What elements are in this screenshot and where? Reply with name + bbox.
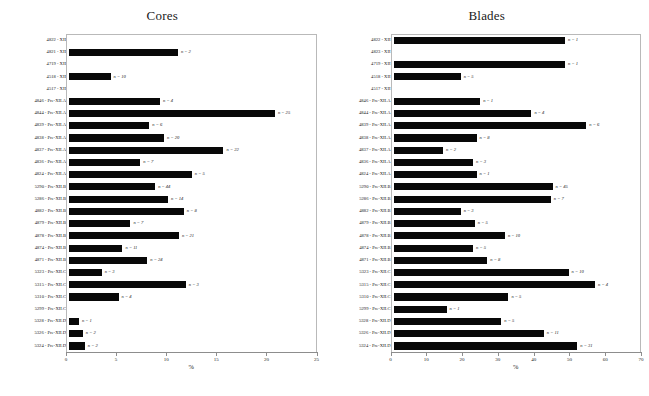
bar-track: n = 1 <box>394 303 642 315</box>
bar <box>394 183 553 190</box>
bar-row: 5326 - Pre-XII.Dn = 2 <box>0 328 317 340</box>
bar <box>394 342 578 349</box>
bar-track: n = 14 <box>69 193 317 205</box>
chart-panel-cores: Cores 4822 - XII4821 - XIIn = 24719 - XI… <box>0 0 325 396</box>
bar <box>69 342 85 349</box>
x-axis-tick <box>498 352 499 356</box>
bar-row: 4719 - XII <box>0 58 317 70</box>
bar-track: n = 8 <box>394 254 642 266</box>
bar-value-label: n = 31 <box>577 344 592 349</box>
bar-track <box>394 83 642 95</box>
bar-track: n = 8 <box>69 205 317 217</box>
bar-track: n = 4 <box>69 95 317 107</box>
bar-value-label: n = 5 <box>475 221 488 226</box>
bar <box>69 122 149 129</box>
bar-track: n = 7 <box>69 218 317 230</box>
x-axis-tick <box>605 352 606 356</box>
bar-row: 4837 - Pre-XII.An = 2 <box>325 144 642 156</box>
bar-track: n = 1 <box>394 34 642 46</box>
x-axis-tick-label: 30 <box>495 357 500 362</box>
bar-track: n = 1 <box>394 169 642 181</box>
bar-value-label: n = 2 <box>443 148 456 153</box>
bar-row: 4874 - Pre-XII.Bn = 11 <box>0 242 317 254</box>
bar-value-label: n = 5 <box>473 246 486 251</box>
bar-track: n = 2 <box>394 144 642 156</box>
bar-track: n = 6 <box>69 120 317 132</box>
bar-category-label: 5286 - Pre-XII.B <box>325 197 394 202</box>
bar-category-label: 4882 - Pre-XII.B <box>325 209 394 214</box>
bar-category-label: 4878 - Pre-XII.B <box>0 234 69 239</box>
bar-category-label: 5323 - Pre-XII.C <box>325 270 394 275</box>
bar-track: n = 4 <box>394 279 642 291</box>
x-axis-tick-label: 0 <box>65 357 68 362</box>
bar <box>394 147 444 154</box>
bar <box>69 232 179 239</box>
bar-value-label: n = 3 <box>186 283 199 288</box>
bar <box>394 61 565 68</box>
bar <box>394 257 488 264</box>
bar-category-label: 4838 - Pre-XII.A <box>0 136 69 141</box>
bar-category-label: 5299 - Pre-XII.C <box>325 307 394 312</box>
bar-track: n = 22 <box>69 144 317 156</box>
bar-value-label: n = 11 <box>122 246 137 251</box>
bar <box>394 245 474 252</box>
bar-track: n = 3 <box>69 279 317 291</box>
bar-track: n = 2 <box>69 328 317 340</box>
bar <box>69 257 147 264</box>
bar-category-label: 4871 - Pre-XII.B <box>325 258 394 263</box>
bar-row: 4518 - XIIn = 5 <box>325 71 642 83</box>
bar-track: n = 11 <box>394 328 642 340</box>
bar-row: 5310 - Pre-XII.Cn = 5 <box>325 291 642 303</box>
bar <box>69 98 160 105</box>
bar-category-label: 5328 - Pre-XII.D <box>325 319 394 324</box>
bar <box>394 110 532 117</box>
bar-value-label: n = 3 <box>461 209 474 214</box>
bar-category-label: 4879 - Pre-XII.B <box>0 221 69 226</box>
bar <box>69 134 164 141</box>
bar-track <box>69 83 317 95</box>
bar-value-label: n = 8 <box>184 209 197 214</box>
bar-row: 4878 - Pre-XII.Bn = 10 <box>325 230 642 242</box>
x-axis-tick <box>641 352 642 356</box>
bar-row: 4879 - Pre-XII.Bn = 7 <box>0 218 317 230</box>
bar-track: n = 10 <box>394 230 642 242</box>
bar-value-label: n = 10 <box>111 75 126 80</box>
bar-value-label: n = 24 <box>147 258 162 263</box>
x-axis-tick-label: 20 <box>264 357 269 362</box>
bar-value-label: n = 1 <box>447 307 460 312</box>
bar <box>394 281 596 288</box>
bar <box>394 318 502 325</box>
bar-value-label: n = 8 <box>487 258 500 263</box>
bar <box>69 318 79 325</box>
bar-value-label: n = 20 <box>164 136 179 141</box>
bar-row: 4836 - Pre-XII.An = 3 <box>325 156 642 168</box>
bar-value-label: n = 2 <box>85 344 98 349</box>
bar <box>394 73 461 80</box>
bar-category-label: 4822 - XII <box>325 38 394 43</box>
bar-track: n = 24 <box>69 254 317 266</box>
bar-value-label: n = 7 <box>130 221 143 226</box>
bar-row: 4822 - XII <box>0 34 317 46</box>
x-axis-blades: % 010203040506070 <box>391 352 642 382</box>
bar-value-label: n = 8 <box>477 136 490 141</box>
x-axis-tick-label: 0 <box>389 357 392 362</box>
bar-row: 4882 - Pre-XII.Bn = 3 <box>325 205 642 217</box>
x-axis-tick-label: 50 <box>567 357 572 362</box>
bar-category-label: 5323 - Pre-XII.C <box>0 270 69 275</box>
plot-area-blades: 4822 - XIIn = 14823 - XII4719 - XIIn = 1… <box>325 28 649 396</box>
bar-value-label: n = 1 <box>79 319 92 324</box>
bar <box>394 122 587 129</box>
bar <box>394 330 544 337</box>
x-axis-title-blades: % <box>391 363 642 370</box>
bar-track: n = 5 <box>394 291 642 303</box>
bar-value-label: n = 11 <box>544 331 559 336</box>
bar-track: n = 11 <box>69 242 317 254</box>
bar-value-label: n = 14 <box>168 197 183 202</box>
bar-value-label: n = 44 <box>155 185 170 190</box>
bar-track: n = 21 <box>69 230 317 242</box>
bar <box>394 196 551 203</box>
bar-category-label: 5315 - Pre-XII.C <box>325 283 394 288</box>
x-axis-tick <box>166 352 167 356</box>
bar-category-label: 4838 - Pre-XII.A <box>325 136 394 141</box>
bar-category-label: 4719 - XII <box>325 62 394 67</box>
